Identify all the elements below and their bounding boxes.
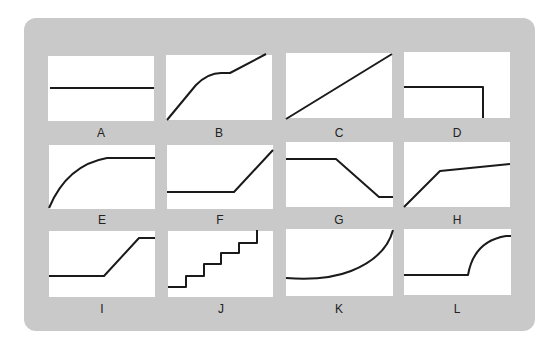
label-c: C xyxy=(286,126,392,140)
panel-j xyxy=(168,231,273,297)
label-h: H xyxy=(404,213,510,227)
panel-i xyxy=(49,231,155,297)
graph-c-icon xyxy=(286,53,392,118)
label-k: K xyxy=(286,302,392,316)
panel-h xyxy=(404,142,510,207)
graph-a-icon xyxy=(48,56,154,121)
graph-d-icon xyxy=(404,52,510,118)
label-j: J xyxy=(168,302,274,316)
panel-c xyxy=(286,53,392,118)
panel-f xyxy=(167,145,273,209)
panel-e xyxy=(49,145,155,209)
label-d: D xyxy=(404,126,510,140)
label-i: I xyxy=(49,302,155,316)
label-a: A xyxy=(48,126,154,140)
graph-h-icon xyxy=(404,142,510,207)
label-g: G xyxy=(286,213,392,227)
panel-l xyxy=(404,229,511,295)
label-l: L xyxy=(404,302,510,316)
graph-g-icon xyxy=(286,142,393,207)
label-b: B xyxy=(166,126,272,140)
graph-b-icon xyxy=(166,55,272,120)
panel-d xyxy=(404,52,510,118)
label-f: F xyxy=(167,213,273,227)
graph-e-icon xyxy=(49,145,155,209)
graph-k-icon xyxy=(286,229,393,296)
panel-a xyxy=(48,56,154,121)
panel-b xyxy=(166,55,272,120)
panel-k xyxy=(286,229,393,296)
graph-i-icon xyxy=(49,231,155,297)
graph-j-icon xyxy=(168,231,273,297)
panel-g xyxy=(286,142,393,207)
graph-f-icon xyxy=(167,145,273,209)
label-e: E xyxy=(49,213,155,227)
graph-l-icon xyxy=(404,229,511,295)
